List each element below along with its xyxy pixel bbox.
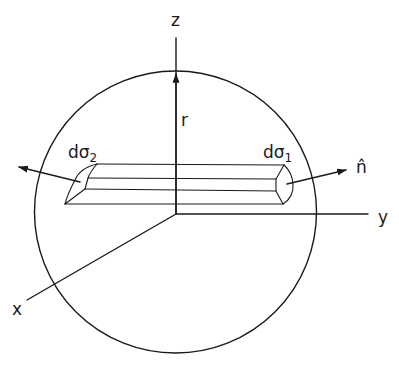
sphere-diagram: z y x r dσ2 dσ1 n̂ [0,0,399,369]
x-axis-label: x [12,299,22,319]
radius-label: r [181,110,188,130]
y-axis-label: y [378,207,388,227]
x-axis [27,214,176,300]
surface-1-label: dσ1 [263,142,292,165]
normal-label: n̂ [356,157,367,177]
normal-arrow-1 [287,170,346,184]
cylindrical-slab [65,164,293,204]
z-axis-label: z [171,10,180,30]
normal-arrow-2 [19,167,80,182]
surface-2-label: dσ2 [68,142,97,165]
